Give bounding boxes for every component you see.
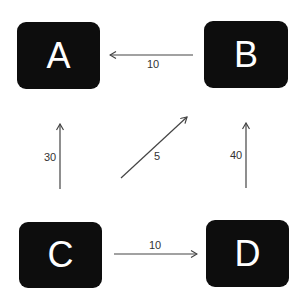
node-c-label: C [48, 234, 74, 276]
edge-c-to-b [121, 117, 187, 178]
edge-label-c-to-d: 10 [149, 239, 161, 251]
edge-label-c-to-a: 30 [44, 151, 56, 163]
node-b: B [204, 21, 288, 88]
node-d-label: D [235, 233, 261, 275]
edge-label-c-to-b: 5 [154, 150, 160, 162]
edge-label-b-to-a: 10 [147, 58, 159, 70]
node-d: D [206, 220, 289, 287]
node-c: C [19, 222, 102, 288]
node-a: A [17, 22, 100, 89]
node-a-label: A [46, 35, 70, 77]
edge-label-d-to-b: 40 [230, 149, 242, 161]
node-b-label: B [234, 34, 258, 76]
